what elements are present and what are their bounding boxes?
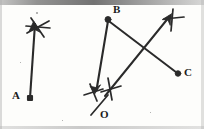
point-label-a: A (12, 90, 20, 101)
tick-near-o-left (84, 84, 103, 101)
point-marker-b (105, 17, 111, 23)
point-label-c: C (184, 67, 192, 78)
scan-speck (150, 112, 151, 113)
scan-edge-left (0, 0, 2, 129)
point-label-o: O (100, 109, 109, 120)
tick-upper-left (26, 18, 50, 37)
scan-edge-top (0, 0, 204, 5)
diagram-canvas: A B C O (0, 0, 204, 129)
point-label-b: B (113, 4, 120, 15)
scan-speck (62, 120, 63, 121)
point-marker-a (28, 96, 33, 101)
scan-edge-bottom (0, 126, 204, 129)
ray-b-to-o (90, 21, 108, 94)
scan-speck (36, 12, 38, 14)
scan-edge-right (201, 0, 204, 129)
point-marker-c (175, 71, 181, 77)
segment-b-to-c (110, 22, 177, 73)
ray-a-upper-left (29, 22, 40, 99)
scan-speck (20, 62, 21, 63)
